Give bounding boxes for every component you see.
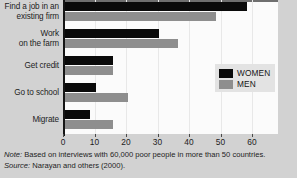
- bar: [65, 39, 178, 48]
- bar: [65, 83, 97, 92]
- category-label: Find a job in anexisting firm: [0, 2, 59, 21]
- category-label-line: Migrate: [0, 115, 59, 124]
- category-label: Get credit: [0, 61, 59, 70]
- bar: [65, 66, 114, 75]
- bar: [65, 12, 216, 21]
- category-label-line: existing firm: [0, 12, 59, 21]
- source-line: Source: Narayan and others (2000).: [4, 161, 294, 172]
- bar: [65, 2, 248, 11]
- bar: [65, 110, 90, 119]
- figure-notes: Note: Based on interviews with 60,000 po…: [4, 150, 294, 171]
- legend-swatch-men-icon: [219, 80, 233, 89]
- legend-label-women: WOMEN: [237, 68, 270, 78]
- tick-label: 50: [211, 137, 231, 147]
- chart-legend: WOMEN MEN: [215, 64, 275, 92]
- tick-label: 30: [148, 137, 168, 147]
- x-axis-ticks: 0102030405060: [0, 134, 297, 150]
- source-text: Narayan and others (2000).: [30, 161, 125, 170]
- bar: [65, 29, 160, 38]
- category-label-line: Work: [0, 29, 59, 38]
- category-label-line: on the farm: [0, 39, 59, 48]
- category-label-line: Get credit: [0, 61, 59, 70]
- category-label-line: Find a job in an: [0, 2, 59, 11]
- tick-label: 20: [116, 137, 136, 147]
- category-label: Go to school: [0, 88, 59, 97]
- legend-label-men: MEN: [237, 79, 256, 89]
- legend-item-men: MEN: [219, 79, 256, 89]
- bar-chart-figure: Find a job in anexisting firmWorkon the …: [0, 0, 297, 178]
- tick-label: 40: [179, 137, 199, 147]
- tick-label: 10: [85, 137, 105, 147]
- bar: [65, 120, 114, 129]
- note-text: Based on interviews with 60,000 poor peo…: [22, 150, 265, 159]
- legend-item-women: WOMEN: [219, 68, 270, 78]
- note-line: Note: Based on interviews with 60,000 po…: [4, 150, 294, 161]
- category-label-line: Go to school: [0, 88, 59, 97]
- source-key: Source:: [4, 161, 30, 170]
- category-axis-labels: Find a job in anexisting firmWorkon the …: [0, 0, 59, 134]
- legend-swatch-women-icon: [219, 69, 233, 78]
- note-key: Note:: [4, 150, 22, 159]
- category-label: Migrate: [0, 115, 59, 124]
- category-label: Workon the farm: [0, 29, 59, 48]
- tick-label: 0: [53, 137, 73, 147]
- bar: [65, 56, 114, 65]
- bar: [65, 93, 128, 102]
- right-margin-strip: [278, 0, 297, 150]
- tick-label: 60: [242, 137, 262, 147]
